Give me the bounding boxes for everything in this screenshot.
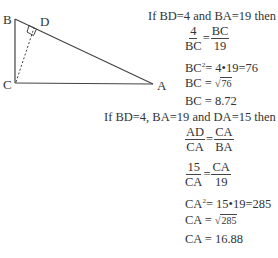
label-a: A <box>157 79 166 92</box>
part1-condition: If BD=4 and BA=19 then <box>148 9 276 23</box>
fraction: 4 BC <box>185 24 202 53</box>
part2-result: CA = 16.88 <box>185 232 243 246</box>
part2-step-sqrt: CA = √285 <box>185 213 237 228</box>
right-angle-marker <box>27 26 37 36</box>
part1-proportion: 4 BC = BC 19 <box>185 24 229 53</box>
part2-proportion-1: AD CA = CA BA <box>185 125 234 154</box>
label-b: B <box>3 13 12 26</box>
part2-proportion-2: 15 CA = CA 19 <box>185 160 231 189</box>
altitude-cd <box>16 28 34 82</box>
fraction: CA 19 <box>211 160 230 189</box>
part1-result: BC = 8.72 <box>185 94 237 108</box>
part2-step-squared: CA2= 15•19=285 <box>185 194 271 211</box>
label-c: C <box>3 78 12 91</box>
right-triangle-diagram <box>0 0 160 100</box>
side-ca <box>15 83 153 84</box>
sqrt-icon: √76 <box>215 77 233 89</box>
sqrt-icon: √285 <box>215 214 238 226</box>
fraction: 15 CA <box>185 160 202 189</box>
fraction: CA BA <box>214 125 233 154</box>
part2-condition: If BD=4, BA=19 and DA=15 then <box>104 110 276 124</box>
label-d: D <box>40 15 49 28</box>
fraction: AD CA <box>185 125 205 154</box>
part1-step-sqrt: BC = √76 <box>185 76 232 91</box>
fraction: BC 19 <box>211 24 230 53</box>
part1-step-squared: BC2= 4•19=76 <box>185 58 258 75</box>
